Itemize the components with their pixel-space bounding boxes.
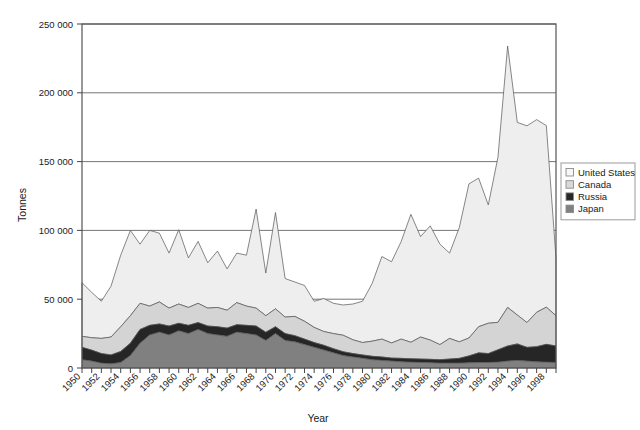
legend-item-japan[interactable]: Japan — [566, 203, 604, 214]
legend-swatch — [566, 169, 574, 177]
legend-label: Canada — [578, 179, 612, 190]
y-tick-label: 200 000 — [39, 87, 73, 98]
legend-swatch — [566, 193, 574, 201]
legend-swatch — [566, 181, 574, 189]
legend[interactable]: United StatesCanadaRussiaJapan — [561, 163, 635, 220]
legend-label: Japan — [578, 203, 604, 214]
chart-canvas: 050 000100 000150 000200 000250 000 1950… — [0, 0, 640, 430]
legend-item-russia[interactable]: Russia — [566, 191, 608, 202]
y-axis-title: Tonnes — [16, 188, 28, 222]
y-tick-label: 50 000 — [44, 294, 73, 305]
y-tick-label: 150 000 — [39, 156, 73, 167]
x-axis-title: Year — [307, 412, 329, 424]
legend-swatch — [566, 205, 574, 213]
legend-item-canada[interactable]: Canada — [566, 179, 612, 190]
legend-label: Russia — [578, 191, 608, 202]
y-tick-label: 100 000 — [39, 225, 73, 236]
stacked-area-chart: 050 000100 000150 000200 000250 000 1950… — [0, 0, 640, 430]
y-tick-label: 250 000 — [39, 19, 73, 30]
legend-label: United States — [578, 167, 635, 178]
